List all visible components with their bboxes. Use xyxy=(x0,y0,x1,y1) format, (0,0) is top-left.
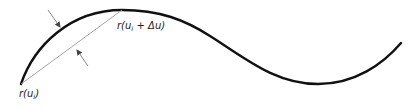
chord-line xyxy=(21,10,122,84)
label-start-prefix: r(u xyxy=(19,88,33,99)
label-end-suffix: + Δu) xyxy=(133,20,165,31)
label-end-prefix: r(u xyxy=(117,20,131,31)
parametric-curve xyxy=(21,10,401,84)
deviation-arrow-outer xyxy=(48,10,60,27)
curve-diagram xyxy=(0,0,411,110)
label-start-suffix: ) xyxy=(35,88,39,99)
deviation-arrow-inner xyxy=(77,50,88,66)
label-start-point: r(ui) xyxy=(19,89,39,101)
label-end-point: r(ui + Δu) xyxy=(117,21,165,33)
